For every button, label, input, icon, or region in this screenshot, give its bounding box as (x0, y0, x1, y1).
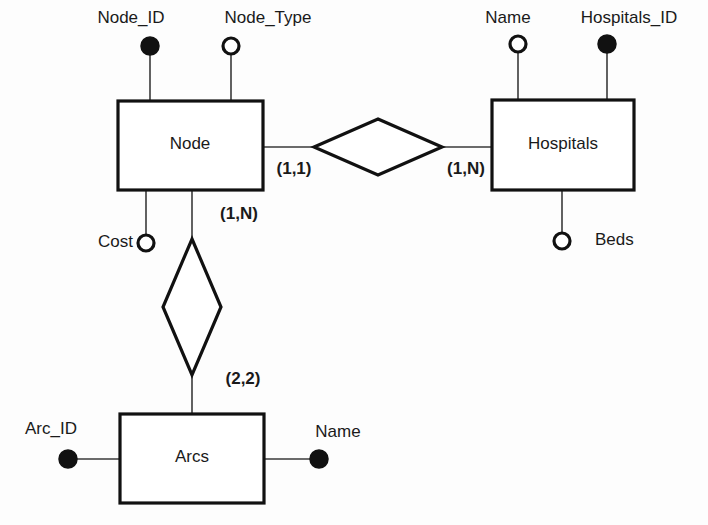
attribute-label-arcs-arc-id: Arc_ID (25, 419, 77, 438)
attribute-marker-node-cost[interactable] (138, 235, 154, 251)
entity-label-arcs: Arcs (175, 447, 209, 466)
cardinality-label-arcs-side: (2,2) (226, 369, 261, 388)
attribute-label-hospitals-name: Name (485, 8, 530, 27)
entity-label-hospitals: Hospitals (528, 134, 598, 153)
attribute-label-node-id: Node_ID (97, 8, 164, 27)
er-diagram-svg: NodeHospitalsArcs Node_IDNode_TypeCostNa… (0, 0, 708, 525)
key-attribute-marker-hospitals-id[interactable] (598, 35, 616, 53)
er-diagram-canvas: NodeHospitalsArcs Node_IDNode_TypeCostNa… (0, 0, 708, 525)
cardinality-labels-group: (1,1)(1,N)(1,N)(2,2) (220, 159, 485, 388)
attribute-label-node-type: Node_Type (225, 8, 312, 27)
cardinality-label-node-arcs-top: (1,N) (220, 204, 258, 223)
attribute-label-node-cost: Cost (98, 232, 133, 251)
attribute-label-hospitals-id: Hospitals_ID (581, 8, 677, 27)
attribute-marker-node-type[interactable] (223, 38, 239, 54)
attribute-marker-hospitals-name[interactable] (510, 36, 526, 52)
key-attribute-marker-arcs-arc-id[interactable] (59, 450, 77, 468)
relationship-diamond-node-hospitals[interactable] (314, 119, 442, 175)
relationship-diamond-node-arcs[interactable] (163, 239, 221, 375)
cardinality-label-node-side: (1,1) (277, 159, 312, 178)
key-attribute-marker-node-id[interactable] (141, 37, 159, 55)
attribute-label-hospitals-beds: Beds (595, 230, 634, 249)
key-attribute-marker-arcs-name[interactable] (310, 450, 328, 468)
attribute-nodes-group: Node_IDNode_TypeCostNameHospitals_IDBeds… (25, 8, 677, 468)
entity-label-node: Node (170, 134, 211, 153)
cardinality-label-hospitals-side: (1,N) (447, 159, 485, 178)
attribute-label-arcs-name: Name (315, 422, 360, 441)
attribute-marker-hospitals-beds[interactable] (554, 233, 570, 249)
